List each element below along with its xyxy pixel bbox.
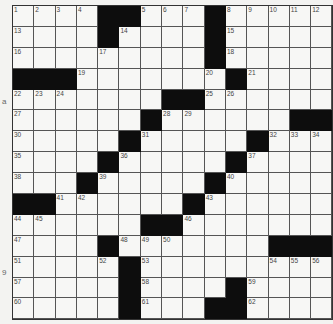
grid-cell[interactable] [247,173,268,194]
grid-cell[interactable]: 31 [141,131,162,152]
grid-cell[interactable]: 14 [119,27,140,48]
grid-cell[interactable] [141,173,162,194]
grid-cell[interactable] [56,131,77,152]
grid-cell[interactable] [119,90,140,111]
grid-cell[interactable] [269,69,290,90]
grid-cell[interactable] [183,278,204,299]
grid-cell[interactable] [205,236,226,257]
grid-cell[interactable] [311,90,332,111]
grid-cell[interactable] [141,69,162,90]
grid-cell[interactable]: 20 [205,69,226,90]
grid-cell[interactable]: 49 [141,236,162,257]
grid-cell[interactable] [226,215,247,236]
grid-cell[interactable] [205,152,226,173]
grid-cell[interactable] [183,69,204,90]
grid-cell[interactable]: 8 [226,6,247,27]
grid-cell[interactable] [183,48,204,69]
grid-cell[interactable] [162,131,183,152]
grid-cell[interactable] [162,152,183,173]
grid-cell[interactable] [119,110,140,131]
grid-cell[interactable]: 19 [77,69,98,90]
grid-cell[interactable] [162,48,183,69]
grid-cell[interactable]: 5 [141,6,162,27]
grid-cell[interactable]: 7 [183,6,204,27]
grid-cell[interactable]: 54 [269,257,290,278]
grid-cell[interactable]: 28 [162,110,183,131]
grid-cell[interactable] [311,194,332,215]
grid-cell[interactable] [34,257,55,278]
grid-cell[interactable]: 51 [13,257,34,278]
grid-cell[interactable]: 37 [247,152,268,173]
grid-cell[interactable]: 12 [311,6,332,27]
grid-cell[interactable] [77,48,98,69]
grid-cell[interactable] [311,278,332,299]
grid-cell[interactable] [56,298,77,319]
grid-cell[interactable] [247,194,268,215]
grid-cell[interactable] [290,215,311,236]
grid-cell[interactable] [77,90,98,111]
grid-cell[interactable] [290,90,311,111]
grid-cell[interactable] [183,236,204,257]
grid-cell[interactable] [290,152,311,173]
grid-cell[interactable] [77,131,98,152]
grid-cell[interactable] [205,131,226,152]
grid-cell[interactable]: 62 [247,298,268,319]
grid-cell[interactable] [34,152,55,173]
grid-cell[interactable] [290,173,311,194]
grid-cell[interactable] [162,278,183,299]
grid-cell[interactable]: 4 [77,6,98,27]
grid-cell[interactable] [247,257,268,278]
grid-cell[interactable] [77,152,98,173]
grid-cell[interactable] [269,48,290,69]
grid-cell[interactable]: 44 [13,215,34,236]
grid-cell[interactable] [119,194,140,215]
grid-cell[interactable] [247,215,268,236]
grid-cell[interactable]: 23 [34,90,55,111]
grid-cell[interactable]: 38 [13,173,34,194]
grid-cell[interactable] [77,110,98,131]
grid-cell[interactable]: 46 [183,215,204,236]
grid-cell[interactable]: 43 [205,194,226,215]
grid-cell[interactable] [205,257,226,278]
grid-cell[interactable] [162,173,183,194]
grid-cell[interactable] [183,173,204,194]
grid-cell[interactable] [247,90,268,111]
grid-cell[interactable] [162,298,183,319]
grid-cell[interactable] [141,90,162,111]
grid-cell[interactable] [34,236,55,257]
grid-cell[interactable]: 16 [13,48,34,69]
grid-cell[interactable] [290,69,311,90]
grid-cell[interactable] [226,257,247,278]
grid-cell[interactable]: 61 [141,298,162,319]
grid-cell[interactable] [77,278,98,299]
grid-cell[interactable] [98,69,119,90]
grid-cell[interactable] [98,194,119,215]
grid-cell[interactable] [311,48,332,69]
grid-cell[interactable]: 13 [13,27,34,48]
grid-cell[interactable] [183,257,204,278]
grid-cell[interactable] [269,173,290,194]
grid-cell[interactable]: 3 [56,6,77,27]
grid-cell[interactable] [269,194,290,215]
grid-cell[interactable] [56,278,77,299]
grid-cell[interactable]: 27 [13,110,34,131]
grid-cell[interactable]: 36 [119,152,140,173]
grid-cell[interactable] [269,110,290,131]
grid-cell[interactable]: 52 [98,257,119,278]
grid-cell[interactable] [77,215,98,236]
grid-cell[interactable] [162,69,183,90]
grid-cell[interactable] [56,48,77,69]
grid-cell[interactable]: 21 [247,69,268,90]
grid-cell[interactable] [34,278,55,299]
grid-cell[interactable] [56,110,77,131]
grid-cell[interactable] [56,173,77,194]
grid-cell[interactable] [56,152,77,173]
grid-cell[interactable]: 6 [162,6,183,27]
grid-cell[interactable] [141,194,162,215]
grid-cell[interactable] [162,257,183,278]
grid-cell[interactable]: 25 [205,90,226,111]
grid-cell[interactable] [56,27,77,48]
grid-cell[interactable] [247,110,268,131]
grid-cell[interactable] [77,298,98,319]
grid-cell[interactable]: 41 [56,194,77,215]
